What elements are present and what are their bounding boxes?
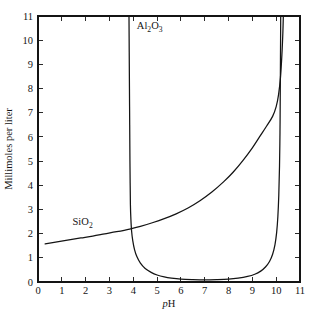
- y-tick-label: 0: [28, 277, 33, 288]
- x-tick-label: 10: [271, 285, 282, 296]
- y-tick-label: 5: [28, 156, 33, 167]
- x-tick-label: 0: [35, 285, 40, 296]
- y-tick-label: 6: [28, 132, 33, 143]
- y-tick-label: 7: [28, 107, 33, 118]
- chart-background: [0, 0, 320, 318]
- y-tick-label: 1: [28, 252, 33, 263]
- x-tick-label: 8: [226, 285, 231, 296]
- x-tick-label: 6: [178, 285, 183, 296]
- chart-figure: 01234567891011 01234567891011 pH Millimo…: [0, 0, 320, 318]
- y-tick-label: 9: [28, 59, 33, 70]
- x-tick-label: 4: [131, 285, 137, 296]
- x-tick-label: 9: [250, 285, 255, 296]
- x-axis-title: pH: [162, 298, 176, 309]
- x-tick-label: 3: [107, 285, 112, 296]
- y-tick-label: 2: [28, 228, 33, 239]
- x-tick-label: 1: [59, 285, 64, 296]
- y-tick-label: 8: [28, 83, 33, 94]
- y-tick-label: 3: [28, 204, 33, 215]
- y-tick-label: 10: [23, 35, 34, 46]
- x-tick-label: 2: [83, 285, 88, 296]
- x-tick-label: 11: [295, 285, 305, 296]
- x-tick-label: 5: [154, 285, 159, 296]
- x-tick-label: 7: [202, 285, 207, 296]
- solubility-chart: 01234567891011 01234567891011 pH Millimo…: [0, 0, 320, 318]
- y-tick-label: 4: [28, 180, 34, 191]
- y-tick-label: 11: [23, 11, 33, 22]
- y-axis-title: Millimoles per liter: [3, 108, 14, 190]
